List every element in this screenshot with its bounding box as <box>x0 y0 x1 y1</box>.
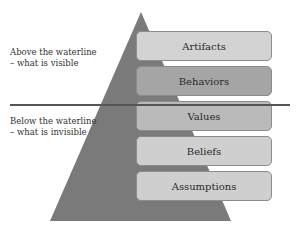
layer-assumptions: Assumptions <box>136 171 272 201</box>
layer-label: Behaviors <box>179 76 229 87</box>
below-waterline-line1: Below the waterline <box>10 116 97 127</box>
above-waterline-line2: – what is visible <box>10 58 97 69</box>
layer-label: Artifacts <box>182 41 226 52</box>
waterline-divider <box>10 104 290 106</box>
below-waterline-line2: – what is invisible <box>10 127 97 138</box>
layer-behaviors: Behaviors <box>136 66 272 96</box>
layer-label: Beliefs <box>187 146 221 157</box>
layer-label: Assumptions <box>172 181 237 192</box>
above-waterline-label: Above the waterline – what is visible <box>10 47 97 69</box>
layer-beliefs: Beliefs <box>136 136 272 166</box>
layer-artifacts: Artifacts <box>136 31 272 61</box>
layer-label: Values <box>188 111 221 122</box>
below-waterline-label: Below the waterline – what is invisible <box>10 116 97 138</box>
above-waterline-line1: Above the waterline <box>10 47 97 58</box>
